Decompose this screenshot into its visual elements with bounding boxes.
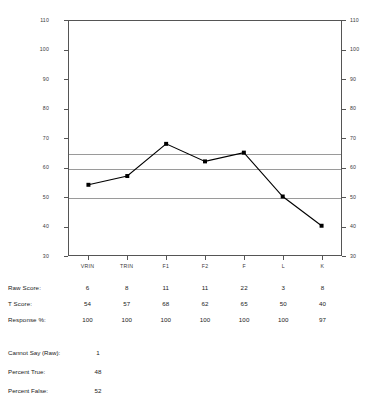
x-axis-label-F1: F1 [146,263,186,269]
profile-report-page: 11010090807060504030 1101009080706050403… [0,0,373,402]
data-point-TRIN[interactable] [125,174,129,178]
y-axis-right-tick-label: 70 [350,135,373,141]
y-axis-left-tick-label: 90 [23,76,49,82]
x-axis-label-F2: F2 [185,263,225,269]
table-cell: 100 [263,316,303,323]
table-row-label: T Score: [8,300,32,307]
profile-line [88,144,321,226]
y-axis-left-tick-label: 70 [23,135,49,141]
y-axis-left-tick-label: 80 [23,105,49,111]
x-axis-label-K: K [302,263,342,269]
table-cell: 97 [302,316,342,323]
y-axis-left-tick-label: 60 [23,164,49,170]
x-axis-tick-mark [283,256,284,260]
y-axis-left-tick-label: 50 [23,194,49,200]
table-cell: 40 [302,300,342,307]
table-cell: 100 [224,316,264,323]
table-cell: 100 [107,316,147,323]
data-point-L[interactable] [281,195,285,199]
summary-value: 1 [85,349,111,356]
y-axis-right-tick-mark [342,197,346,198]
y-axis-left-tick-mark [64,256,68,257]
table-cell: 3 [263,284,303,291]
x-axis-tick-mark [88,256,89,260]
y-axis-right-tick-label: 100 [350,46,373,52]
x-axis-tick-mark [244,256,245,260]
y-axis-right-tick-mark [342,109,346,110]
y-axis-right-tick-mark [342,138,346,139]
x-axis-tick-mark [322,256,323,260]
summary-label: Percent False: [8,387,48,394]
table-row-label: Raw Score: [8,284,41,291]
table-cell: 8 [302,284,342,291]
y-axis-right-tick-label: 60 [350,164,373,170]
y-axis-left-tick-label: 30 [23,253,49,259]
y-axis-right-tick-label: 50 [350,194,373,200]
x-axis-label-TRIN: TRIN [107,263,147,269]
table-cell: 11 [185,284,225,291]
table-cell: 8 [107,284,147,291]
data-point-F1[interactable] [164,142,168,146]
x-axis-tick-mark [127,256,128,260]
table-cell: 22 [224,284,264,291]
x-axis-tick-mark [205,256,206,260]
x-axis-label-VRIN: VRIN [68,263,108,269]
y-axis-right-tick-label: 30 [350,253,373,259]
y-axis-right-tick-mark [342,79,346,80]
table-cell: 100 [185,316,225,323]
table-row-label: Response %: [8,316,46,323]
table-cell: 62 [185,300,225,307]
y-axis-left-tick-label: 110 [23,17,49,23]
table-cell: 100 [146,316,186,323]
y-axis-right-tick-mark [342,20,346,21]
summary-value: 52 [85,387,111,394]
y-axis-right-tick-label: 110 [350,17,373,23]
x-axis-label-F: F [224,263,264,269]
chart-plot-area [68,20,342,256]
x-axis-label-L: L [263,263,303,269]
y-axis-right-tick-label: 80 [350,105,373,111]
t-score-line-series [69,21,341,255]
table-cell: 57 [107,300,147,307]
x-axis-tick-mark [166,256,167,260]
table-cell: 68 [146,300,186,307]
table-cell: 54 [68,300,108,307]
data-point-K[interactable] [320,224,324,228]
summary-value: 48 [85,368,111,375]
y-axis-right-tick-mark [342,168,346,169]
table-cell: 65 [224,300,264,307]
y-axis-left-tick-label: 40 [23,223,49,229]
data-point-F2[interactable] [203,159,207,163]
y-axis-right-tick-mark [342,227,346,228]
y-axis-right-tick-label: 90 [350,76,373,82]
summary-label: Percent True: [8,368,45,375]
data-point-F[interactable] [242,151,246,155]
summary-label: Cannot Say (Raw): [8,349,60,356]
y-axis-right-tick-label: 40 [350,223,373,229]
y-axis-left-tick-label: 100 [23,46,49,52]
table-cell: 50 [263,300,303,307]
table-cell: 6 [68,284,108,291]
data-point-VRIN[interactable] [86,183,90,187]
table-cell: 11 [146,284,186,291]
table-cell: 100 [68,316,108,323]
y-axis-right-tick-mark [342,256,346,257]
y-axis-right-tick-mark [342,50,346,51]
